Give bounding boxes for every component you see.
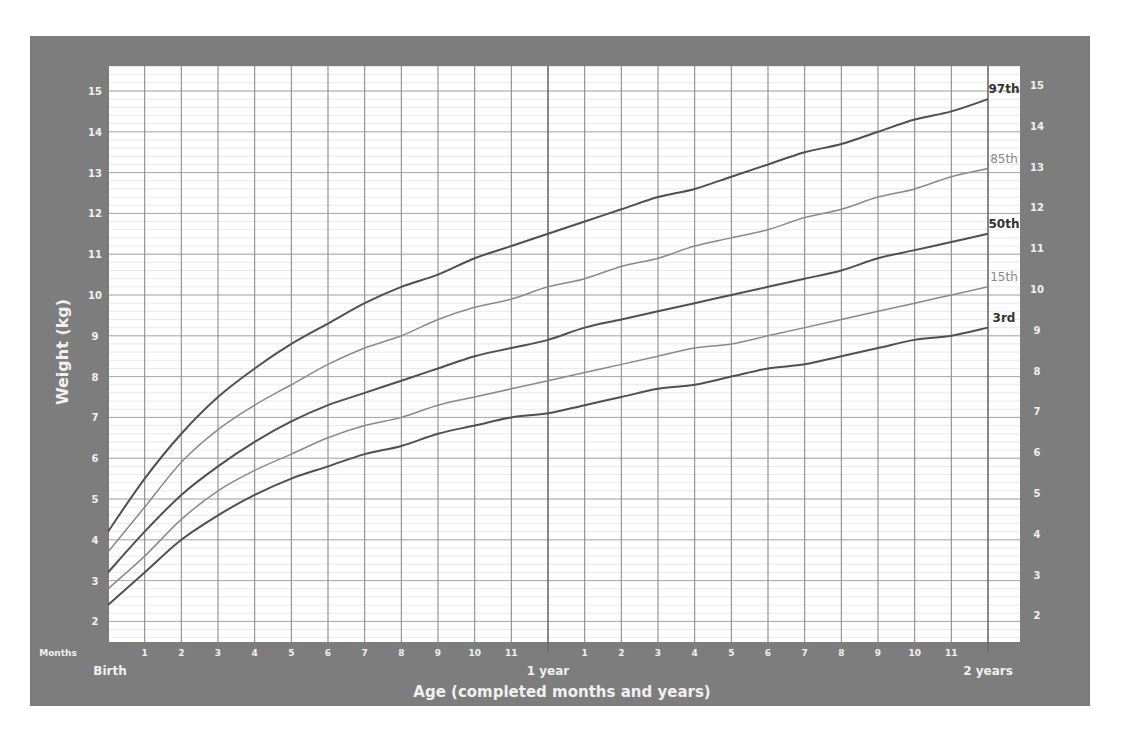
- plot-left-edge: [106, 66, 109, 642]
- y-tick-right: 7: [1034, 406, 1041, 417]
- x-month-tick: 9: [435, 648, 441, 658]
- x-month-tick: 2: [618, 648, 624, 658]
- x-month-tick: 11: [945, 648, 958, 658]
- y-tick-right: 9: [1034, 325, 1041, 336]
- y-tick-left: 2: [92, 616, 99, 627]
- y-tick-right: 14: [1030, 121, 1044, 132]
- y-tick-left: 7: [92, 412, 99, 423]
- y-tick-right: 10: [1030, 284, 1044, 295]
- x-month-tick: 6: [765, 648, 771, 658]
- x-month-tick: 4: [252, 648, 258, 658]
- plot-area: [107, 66, 1020, 642]
- x-month-tick: 10: [468, 648, 481, 658]
- y-tick-left: 8: [92, 372, 99, 383]
- y-tick-left: 10: [88, 290, 102, 301]
- y-tick-right: 4: [1034, 529, 1041, 540]
- x-year-label-2: 2 years: [963, 664, 1013, 678]
- y-tick-left: 9: [92, 331, 99, 342]
- y-tick-left: 11: [88, 249, 102, 260]
- percentile-label-3rd: 3rd: [993, 311, 1016, 325]
- y-tick-left: 3: [92, 576, 99, 587]
- x-month-tick: 3: [655, 648, 661, 658]
- x-start-label: Birth: [93, 664, 126, 678]
- percentile-label-50th: 50th: [989, 217, 1020, 231]
- percentile-label-85th: 85th: [990, 152, 1018, 166]
- x-month-tick: 6: [325, 648, 331, 658]
- growth-chart: 2233445566778899101011111212131314141515…: [0, 0, 1121, 736]
- y-tick-left: 4: [92, 535, 99, 546]
- y-tick-right: 6: [1034, 447, 1041, 458]
- y-tick-right: 12: [1030, 202, 1044, 213]
- y-tick-right: 13: [1030, 162, 1044, 173]
- y-tick-left: 14: [88, 127, 102, 138]
- y-tick-left: 15: [88, 86, 102, 97]
- percentile-label-97th: 97th: [989, 82, 1020, 96]
- x-month-tick: 8: [398, 648, 404, 658]
- x-month-tick: 5: [288, 648, 294, 658]
- y-tick-right: 11: [1030, 243, 1044, 254]
- x-axis-title: Age (completed months and years): [413, 683, 710, 701]
- y-tick-left: 12: [88, 208, 102, 219]
- x-month-tick: 10: [908, 648, 921, 658]
- x-month-tick: 9: [875, 648, 881, 658]
- x-month-tick: 5: [728, 648, 734, 658]
- x-month-tick: 7: [362, 648, 368, 658]
- y-tick-right: 8: [1034, 366, 1041, 377]
- y-tick-left: 5: [92, 494, 99, 505]
- x-month-tick: 2: [178, 648, 184, 658]
- y-tick-right: 15: [1030, 80, 1044, 91]
- x-month-tick: 1: [582, 648, 588, 658]
- x-month-tick: 11: [505, 648, 518, 658]
- y-axis-title: Weight (kg): [53, 299, 72, 405]
- x-month-tick: 8: [838, 648, 844, 658]
- y-tick-right: 5: [1034, 488, 1041, 499]
- y-tick-right: 2: [1034, 610, 1041, 621]
- x-month-tick: 7: [802, 648, 808, 658]
- y-tick-left: 13: [88, 168, 102, 179]
- x-month-tick: 1: [142, 648, 148, 658]
- y-tick-left: 6: [92, 453, 99, 464]
- y-tick-right: 3: [1034, 570, 1041, 581]
- x-month-tick: 3: [215, 648, 221, 658]
- x-year-label-1: 1 year: [527, 664, 570, 678]
- percentile-label-15th: 15th: [990, 270, 1018, 284]
- x-unit-label: Months: [39, 648, 77, 658]
- x-month-tick: 4: [692, 648, 698, 658]
